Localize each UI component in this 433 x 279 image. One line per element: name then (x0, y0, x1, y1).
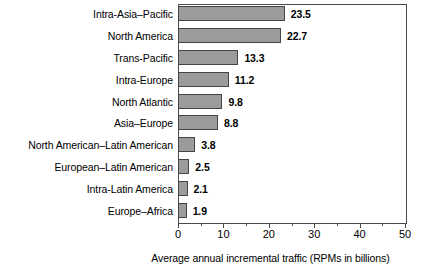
chart-row: Trans-Pacific13.3 (0, 48, 433, 69)
bar (178, 137, 195, 152)
x-tick-label: 10 (217, 228, 229, 240)
chart-row: European–Latin American2.5 (0, 157, 433, 178)
x-tick-minor (201, 223, 202, 226)
category-label: Trans-Pacific (113, 48, 173, 69)
category-label: European–Latin American (54, 157, 173, 178)
category-label: Intra-Latin America (87, 179, 173, 200)
x-tick-label: 20 (263, 228, 275, 240)
bar (178, 181, 188, 196)
bar-value-label: 3.8 (201, 135, 215, 156)
bar (178, 6, 285, 21)
x-tick-label: 50 (399, 228, 411, 240)
chart-row: Intra-Europe11.2 (0, 70, 433, 91)
category-label: North American–Latin American (28, 135, 173, 156)
category-label: Intra-Europe (116, 70, 173, 91)
x-tick-minor (382, 223, 383, 226)
bar (178, 50, 238, 65)
bar (178, 159, 189, 174)
x-tick-minor (292, 223, 293, 226)
category-label: North Atlantic (112, 92, 173, 113)
chart-row: North America22.7 (0, 26, 433, 47)
bar (178, 115, 218, 130)
x-tick-label: 30 (308, 228, 320, 240)
chart-row: Europe–Africa1.9 (0, 201, 433, 222)
chart-row: North Atlantic9.8 (0, 92, 433, 113)
bar-value-label: 8.8 (224, 113, 238, 134)
bar-chart: Intra-Asia–Pacific23.5North America22.7T… (0, 0, 433, 279)
bar-value-label: 2.5 (195, 157, 209, 178)
category-label: Intra-Asia–Pacific (93, 4, 173, 25)
bar-value-label: 23.5 (291, 4, 311, 25)
category-label: Asia–Europe (114, 113, 173, 134)
bar-value-label: 1.9 (193, 201, 207, 222)
x-tick-label: 0 (175, 228, 181, 240)
bar-value-label: 11.2 (235, 70, 254, 91)
bar-value-label: 9.8 (228, 92, 242, 113)
bar (178, 203, 187, 218)
x-tick-label: 40 (353, 228, 365, 240)
category-label: Europe–Africa (108, 201, 173, 222)
x-tick-minor (246, 223, 247, 226)
bar-value-label: 2.1 (194, 179, 208, 200)
category-label: North America (108, 26, 173, 47)
x-axis-title: Average annual incremental traffic (RPMs… (0, 252, 433, 264)
chart-row: Intra-Latin America2.1 (0, 179, 433, 200)
bar (178, 28, 281, 43)
chart-row: Intra-Asia–Pacific23.5 (0, 4, 433, 25)
bar (178, 72, 229, 87)
bar (178, 94, 222, 109)
bar-value-label: 22.7 (287, 26, 307, 47)
chart-row: North American–Latin American3.8 (0, 135, 433, 156)
x-tick-minor (337, 223, 338, 226)
bar-value-label: 13.3 (244, 48, 264, 69)
x-axis-title-text: Average annual incremental traffic (RPMs… (151, 252, 389, 264)
chart-row: Asia–Europe8.8 (0, 113, 433, 134)
